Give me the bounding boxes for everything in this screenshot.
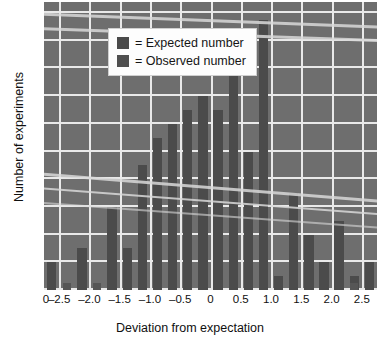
x-tick-label: 2.5	[354, 293, 370, 305]
x-tick-label: 2.0	[324, 293, 340, 305]
y-axis-title: Number of experiments	[12, 52, 26, 222]
x-tick-label: 0	[207, 293, 213, 305]
x-tick-label: –1.0	[139, 293, 161, 305]
axis-labels: 02468101214161820 0–2.5–2.0–1.5–1.0–0.50…	[0, 0, 380, 341]
chart-figure: = Expected number = Observed number 0246…	[0, 0, 380, 341]
x-tick-label: –2.0	[78, 293, 100, 305]
x-tick-label: 1.5	[293, 293, 309, 305]
x-tick-label: 0.5	[233, 293, 249, 305]
x-tick-label: –1.5	[108, 293, 130, 305]
x-tick-label: –0.5	[169, 293, 191, 305]
x-tick-label: 1.0	[263, 293, 279, 305]
x-tick-label: –2.5	[48, 293, 70, 305]
x-axis-title: Deviation from expectation	[0, 321, 380, 335]
